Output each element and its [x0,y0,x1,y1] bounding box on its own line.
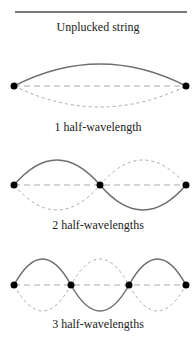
node-dot [68,282,75,289]
mode-3-panel [11,259,190,311]
node-dot [11,282,18,289]
mode-1-label: 1 half-wavelength [0,120,196,134]
node-dot [97,182,104,189]
mode-2-label: 2 half-wavelengths [0,218,196,232]
standing-waves-diagram [0,0,196,339]
solid-wave-curve [14,64,186,86]
mode-3-label: 3 half-wavelengths [0,317,196,331]
dashed-wave-curve [14,86,186,107]
node-dot [11,182,18,189]
unplucked-string-label: Unplucked string [0,20,196,34]
mode-2-panel [11,157,190,210]
mode-1-panel [11,64,190,107]
node-dot [183,83,190,90]
node-dot [126,282,133,289]
node-dot [11,83,18,90]
node-dot [183,182,190,189]
node-dot [183,282,190,289]
